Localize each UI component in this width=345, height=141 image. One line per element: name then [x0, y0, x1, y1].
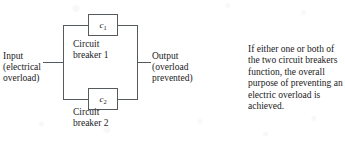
branch-1-input-wire	[63, 25, 88, 26]
circuit-breaker-block-diagram-figure: c1 c2 Input (electrical overload) Output…	[0, 0, 345, 141]
circuit-breaker-2-caption: Circuit breaker 2	[73, 107, 137, 129]
left-bus-wire	[63, 25, 64, 99]
branch-2-input-wire	[63, 99, 88, 100]
output-lead-wire	[137, 62, 151, 63]
branch-1-output-wire	[118, 25, 138, 26]
component-label-c1: c1	[89, 21, 117, 30]
output-label: Output (overload prevented)	[152, 51, 214, 85]
input-label: Input (electrical overload)	[3, 51, 59, 85]
component-box-c1: c1	[88, 14, 118, 36]
branch-2-output-wire	[118, 99, 138, 100]
component-label-c2: c2	[89, 95, 117, 104]
annotation-text: If either one or both of the two circuit…	[248, 44, 343, 112]
circuit-breaker-1-caption: Circuit breaker 1	[73, 39, 137, 61]
